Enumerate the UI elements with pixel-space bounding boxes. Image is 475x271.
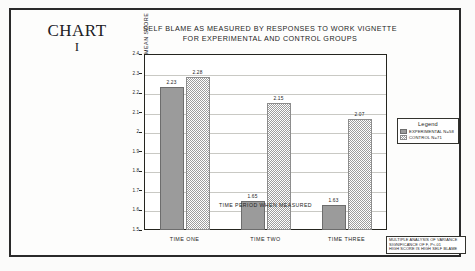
x-axis-label: TIME PERIOD WHEN MEASURED xyxy=(144,202,387,208)
footnote-line-3: HIGH SCORE IS HIGH SELF BLAME xyxy=(389,247,463,252)
y-axis-tick-mark xyxy=(139,151,142,152)
y-axis-tick-label: 1.8 xyxy=(133,168,139,173)
y-axis-tick-label: 1.7 xyxy=(133,188,139,193)
legend-item-experimental: EXPERIMENTAL N=58 xyxy=(400,129,456,134)
y-axis-tick-label: 2.2 xyxy=(133,90,139,95)
chart-title: SELF BLAME AS MEASURED BY RESPONSES TO W… xyxy=(141,24,399,44)
bar-experimental xyxy=(322,205,346,230)
x-axis-category-label: TIME THREE xyxy=(308,236,386,242)
bar-value-label: 2.28 xyxy=(181,70,215,75)
bar-value-label: 1.65 xyxy=(236,194,270,199)
y-axis-tick-label: 2 xyxy=(136,129,139,134)
chart-title-line-1: SELF BLAME AS MEASURED BY RESPONSES TO W… xyxy=(141,24,399,34)
chart-number: CHART I xyxy=(23,22,131,54)
y-axis-tick-label: 1.5 xyxy=(133,227,139,232)
footnote-box: MULTIPLE ANALYSIS OF VARIANCE SIGNIFICAN… xyxy=(386,236,466,254)
chart-number-numeral: I xyxy=(23,39,131,54)
y-axis-tick-mark xyxy=(139,171,142,172)
legend-box: Legend EXPERIMENTAL N=58 CONTROL N=71 xyxy=(397,118,459,144)
bar-value-label: 2.23 xyxy=(155,80,189,85)
bar-control xyxy=(348,119,372,230)
legend-label-control: CONTROL N=71 xyxy=(409,135,442,140)
y-axis-tick-mark xyxy=(139,93,142,94)
y-axis-tick-mark xyxy=(139,54,142,55)
chart-title-line-2: FOR EXPERIMENTAL AND CONTROL GROUPS xyxy=(141,34,399,44)
y-axis-label: MEAN SCORE xyxy=(143,13,149,54)
bar-value-label: 2.07 xyxy=(343,112,377,117)
x-axis-category-label: TIME ONE xyxy=(146,236,224,242)
x-axis-category-label: TIME TWO xyxy=(227,236,305,242)
bar-experimental xyxy=(160,87,184,230)
y-axis-tick-mark xyxy=(139,190,142,191)
y-axis-tick-label: 1.9 xyxy=(133,149,139,154)
y-axis-tick-label: 2.1 xyxy=(133,110,139,115)
legend-title: Legend xyxy=(400,121,456,127)
legend-item-control: CONTROL N=71 xyxy=(400,135,456,140)
y-axis-tick-label: 2.3 xyxy=(133,71,139,76)
y-axis-tick-mark xyxy=(139,132,142,133)
legend-swatch-control-icon xyxy=(400,135,407,140)
chart-number-word: CHART xyxy=(23,22,131,39)
chart-frame: CHART I SELF BLAME AS MEASURED BY RESPON… xyxy=(9,8,461,257)
y-axis-tick-label: 1.6 xyxy=(133,207,139,212)
y-axis-tick-mark xyxy=(139,112,142,113)
y-axis-tick-mark xyxy=(139,230,142,231)
bar-control xyxy=(267,103,291,230)
y-axis-tick-mark xyxy=(139,73,142,74)
y-axis-tick-label: 2.4 xyxy=(133,51,139,56)
legend-label-experimental: EXPERIMENTAL N=58 xyxy=(409,129,454,134)
legend-swatch-experimental-icon xyxy=(400,129,407,134)
y-axis-tick-mark xyxy=(139,210,142,211)
bar-value-label: 2.15 xyxy=(262,96,296,101)
